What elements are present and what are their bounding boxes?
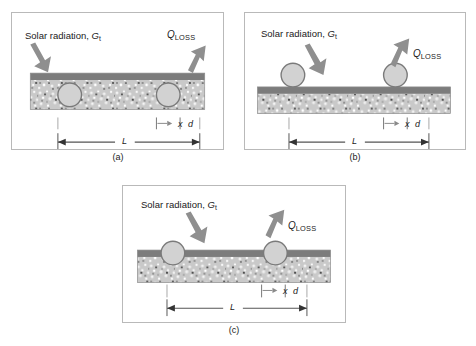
heat-loss-arrow-c [266,210,285,239]
dimension-L-label-b: L [352,137,357,146]
heat-loss-label-b: QLOSS [413,49,441,59]
panel-c: Solar radiation, Gt QLOSS x d L [122,185,346,323]
panel-a: Solar radiation, Gt QLOSS x d L [11,12,224,150]
dimension-d-label-a: d [188,120,193,129]
heat-loss-label-a: QLOSS [167,30,195,40]
dimension-L-label-c: L [230,303,235,312]
dimension-L-label-a: L [122,137,127,146]
dimension-x-label-b: x [405,120,410,129]
panel-caption-c: (c) [214,325,254,335]
panel-caption-b: (b) [335,152,375,162]
solar-radiation-arrow-a [30,43,51,73]
slab-absorber-surface-b [257,87,450,94]
dimension-x-arrow-c [263,288,278,293]
dimension-d-label-b: d [415,120,420,129]
pipe-right-a [156,83,180,107]
dimension-d-label-c: d [293,287,298,296]
dimension-x-arrow-a [157,121,172,126]
panel-b: Solar radiation, Gt QLOSS x d L [244,12,466,150]
slab-concrete-body-b [257,94,450,114]
dimension-x-label-c: x [283,287,288,296]
pipe-left-b [281,63,305,87]
dimension-x-label-a: x [178,120,183,129]
solar-radiation-arrow-c [186,212,208,244]
dimension-L-line-b [289,133,429,149]
solar-radiation-label-c: Solar radiation, Gt [141,200,217,210]
heat-loss-arrow-b [390,39,409,68]
dimension-L-line-a [58,133,200,149]
solar-radiation-label-a: Solar radiation, Gt [25,31,101,41]
pipe-right-c [264,241,288,265]
dimension-L-line-c [167,299,307,316]
solar-radiation-arrow-b [305,44,327,76]
heat-loss-label-c: QLOSS [288,221,316,231]
pipe-left-a [58,83,82,107]
heat-loss-arrow-a [188,46,206,74]
solar-radiation-label-b: Solar radiation, Gt [261,29,337,39]
panel-caption-a: (a) [98,152,138,162]
dimension-x-arrow-b [385,121,400,126]
slab-absorber-surface-a [30,73,204,80]
pipe-left-c [161,241,185,265]
